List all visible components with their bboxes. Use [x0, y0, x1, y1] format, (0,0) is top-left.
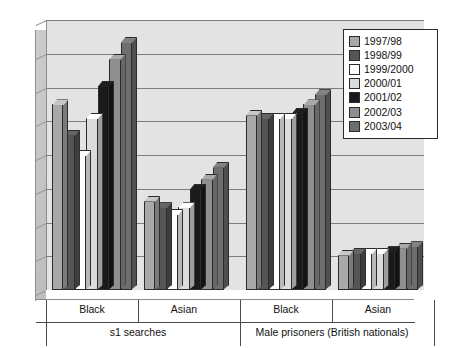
- category-axis: BlackAsianBlackAsians1 searchesMale pris…: [36, 300, 424, 346]
- legend-item[interactable]: 1999/2000: [349, 62, 432, 76]
- legend-item[interactable]: 2001/02: [349, 91, 432, 105]
- gridline: [46, 189, 424, 190]
- legend-item-label: 1998/99: [364, 50, 402, 61]
- legend-swatch-icon: [349, 50, 360, 61]
- category-tick: [138, 300, 139, 322]
- category-label: Black: [46, 303, 138, 315]
- category-axis-divider: [36, 322, 415, 323]
- legend-item-label: 1999/2000: [364, 64, 414, 75]
- bar-chart: 0.02.04.06.08.010.012.014.016.0 1997/981…: [0, 0, 454, 348]
- category-label: Asian: [138, 303, 230, 315]
- legend-item-label: 2000/01: [364, 78, 402, 89]
- legend-item-label: 2003/04: [364, 121, 402, 132]
- gridline: [46, 155, 424, 156]
- legend-swatch-icon: [349, 78, 360, 89]
- legend-item[interactable]: 1998/99: [349, 48, 432, 62]
- legend-swatch-icon: [349, 36, 360, 47]
- legend-item-label: 2002/03: [364, 107, 402, 118]
- legend-swatch-icon: [349, 107, 360, 118]
- legend-item[interactable]: 2003/04: [349, 119, 432, 133]
- y-axis-tick-mark: [36, 20, 46, 26]
- legend-swatch-icon: [349, 64, 360, 75]
- gridline: [46, 20, 424, 21]
- legend-item[interactable]: 2000/01: [349, 77, 432, 91]
- gridline: [46, 223, 424, 224]
- legend-swatch-icon: [349, 121, 360, 132]
- category-label: Asian: [332, 303, 424, 315]
- supergroup-label: s1 searches: [46, 326, 230, 338]
- legend[interactable]: 1997/981998/991999/20002000/012001/02200…: [343, 29, 438, 139]
- legend-swatch-icon: [349, 92, 360, 103]
- legend-item-label: 1997/98: [364, 36, 402, 47]
- legend-item[interactable]: 1997/98: [349, 34, 432, 48]
- category-tick: [332, 300, 333, 322]
- category-label: Black: [240, 303, 332, 315]
- category-tick: [240, 300, 241, 346]
- category-tick: [46, 300, 47, 346]
- legend-item[interactable]: 2002/03: [349, 105, 432, 119]
- gridline: [46, 256, 424, 257]
- supergroup-label: Male prisoners (British nationals): [240, 326, 424, 338]
- category-tick: [434, 300, 435, 346]
- legend-item-label: 2001/02: [364, 92, 402, 103]
